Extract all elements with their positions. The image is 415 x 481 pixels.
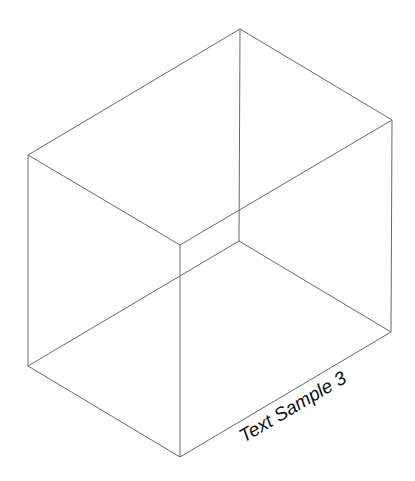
edge-top-back-right — [240, 29, 392, 120]
edge-top-front-left — [28, 155, 180, 245]
edge-bottom-back-left — [28, 241, 239, 366]
diagram-label: Text Sample 3 — [235, 367, 350, 447]
edge-bottom-front-left — [28, 366, 180, 457]
edge-bottom-back-right — [239, 241, 391, 332]
edge-top-back-left — [28, 29, 240, 155]
edge-vertical-right — [391, 120, 392, 332]
isometric-box-diagram: Text Sample 3 — [0, 0, 415, 481]
edge-top-front-right — [180, 120, 392, 245]
edge-bottom-front-right — [180, 332, 391, 457]
diagram-canvas: Text Sample 3 — [0, 0, 415, 481]
